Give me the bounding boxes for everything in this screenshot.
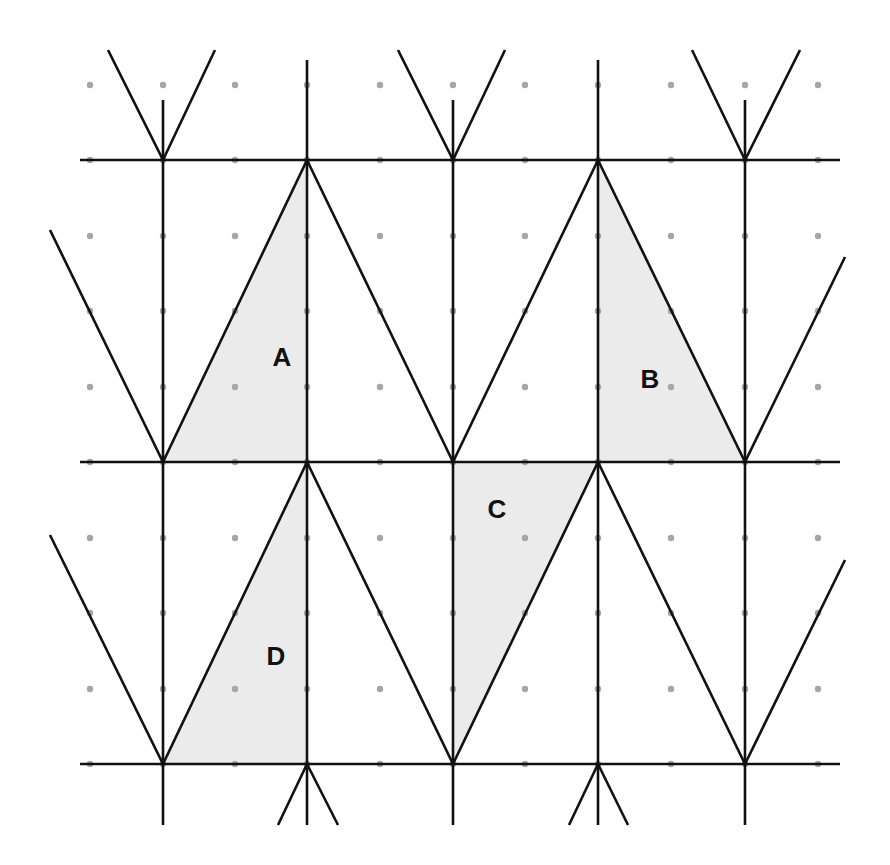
edge-line	[278, 764, 307, 825]
grid-dot	[87, 233, 93, 239]
region-label-b: B	[641, 364, 660, 394]
grid-dot	[668, 686, 674, 692]
edge-line	[745, 50, 800, 160]
grid-dot	[450, 82, 456, 88]
edge-line	[108, 50, 163, 160]
grid-dot	[668, 82, 674, 88]
grid-dot	[377, 82, 383, 88]
region-label-a: A	[273, 342, 292, 372]
grid-dot	[232, 384, 238, 390]
edge-line	[598, 462, 745, 764]
grid-dot	[668, 233, 674, 239]
edge-line	[569, 764, 598, 825]
grid-dot	[815, 686, 821, 692]
grid-dot	[815, 535, 821, 541]
region-label-c: C	[488, 494, 507, 524]
grid-dot	[522, 384, 528, 390]
grid-dot	[377, 535, 383, 541]
grid-dot	[232, 686, 238, 692]
grid-dot	[232, 233, 238, 239]
edge-line	[307, 764, 338, 825]
grid-dot	[815, 233, 821, 239]
edge-line	[453, 50, 505, 160]
triangle-tessellation-diagram: A B C D	[0, 0, 890, 865]
edge-line	[163, 50, 215, 160]
grid-dot	[87, 384, 93, 390]
grid-dot	[160, 82, 166, 88]
grid-dot	[232, 82, 238, 88]
grid-dot	[87, 535, 93, 541]
grid-dot	[87, 82, 93, 88]
grid-dot	[522, 233, 528, 239]
grid-dot	[668, 535, 674, 541]
edge-line	[307, 160, 453, 462]
edge-line	[692, 50, 745, 160]
edge-line	[398, 50, 453, 160]
grid-dot	[377, 686, 383, 692]
grid-dot	[87, 686, 93, 692]
grid-dot	[377, 233, 383, 239]
grid-dot	[668, 384, 674, 390]
edge-line	[50, 535, 163, 764]
grid-dot	[815, 82, 821, 88]
edge-line	[745, 560, 845, 764]
edge-line	[453, 160, 598, 462]
grid-dot	[815, 384, 821, 390]
edge-line	[307, 462, 453, 764]
grid-dot	[232, 535, 238, 541]
edge-line	[745, 257, 845, 462]
grid-dot	[522, 686, 528, 692]
region-label-d: D	[267, 641, 286, 671]
grid-dot	[522, 82, 528, 88]
grid-dot	[742, 82, 748, 88]
edge-line	[50, 230, 163, 462]
grid-dot	[377, 384, 383, 390]
grid-dot	[522, 535, 528, 541]
edge-line	[598, 764, 628, 825]
